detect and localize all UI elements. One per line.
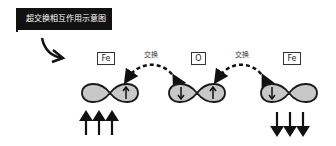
net-spin-down-icon [272,112,308,135]
orbital-fe-right-icon [261,84,317,102]
net-spin-up-icon [81,112,117,135]
orbital-o-icon [169,84,225,102]
pointer-arrow-icon [42,38,63,62]
orbital-fe-left-icon [82,84,138,102]
exchange-arrow-right-icon [218,65,265,80]
superexchange-diagram [0,0,336,146]
exchange-arrow-left-icon [128,65,176,80]
